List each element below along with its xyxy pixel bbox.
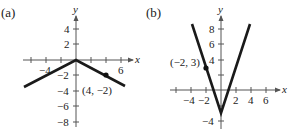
- x-tick-label-a: 6: [118, 64, 124, 76]
- point-marker-b: [203, 65, 208, 70]
- x-axis-label-b: x: [281, 83, 287, 95]
- y-tick-label-a: −4: [57, 85, 69, 97]
- chart-b: (b) x y −4 −2 2 4 6 8 6 4: [146, 3, 287, 129]
- point-label-b: (−2, 3): [170, 56, 200, 69]
- point-marker-a: [103, 72, 108, 77]
- y-tick-label-a: 4: [64, 23, 70, 35]
- x-tick-label-b: −2: [198, 94, 210, 106]
- x-axis-label-a: x: [134, 53, 140, 65]
- y-tick-label-b: 4: [209, 54, 215, 66]
- y-tick-label-b: 6: [209, 38, 215, 50]
- x-tick-label-b: 4: [248, 94, 254, 106]
- y-tick-label-a: −8: [57, 116, 69, 128]
- y-axis-label-a: y: [72, 3, 78, 15]
- y-tick-label-a: −6: [57, 100, 69, 112]
- x-tick-label-b: −4: [183, 94, 195, 106]
- y-tick-label-b: −4: [202, 115, 214, 127]
- chart-a: (a) x y −4 6 4 2 −2 −4 −6 −8: [1, 3, 140, 128]
- y-tick-label-a: 2: [64, 38, 70, 50]
- panel-label-b: (b): [146, 5, 161, 20]
- x-tick-label-b: 6: [263, 94, 269, 106]
- y-axis-label-b: y: [217, 3, 223, 15]
- figure: (a) x y −4 6 4 2 −2 −4 −6 −8: [0, 0, 291, 137]
- y-tick-label-b: 8: [209, 23, 215, 35]
- panel-label-a: (a): [1, 5, 15, 20]
- y-tick-label-a: −2: [57, 69, 69, 81]
- x-tick-label-b: 2: [233, 94, 239, 106]
- point-label-a: (4, −2): [82, 84, 112, 97]
